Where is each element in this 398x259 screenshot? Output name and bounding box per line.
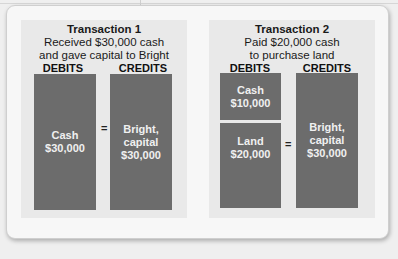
account-amount: $30,000 (45, 142, 85, 155)
description-line-2: to purchase land (209, 49, 375, 62)
credit-box-capital: Bright, capital $30,000 (110, 74, 172, 210)
transaction-2-title: Transaction 2 (209, 23, 375, 35)
account-amount: $30,000 (307, 147, 347, 160)
description-line-2: and gave capital to Bright (21, 49, 187, 62)
debit-box-cash: Cash $10,000 (220, 73, 281, 120)
account-name-line-2: capital (310, 134, 345, 147)
debit-box-cash: Cash $30,000 (34, 74, 96, 210)
account-amount: $20,000 (231, 148, 271, 161)
account-name-line-1: Bright, (309, 121, 344, 134)
account-amount: $30,000 (121, 149, 161, 162)
transactions-card: Transaction 1 Received $30,000 cash and … (6, 5, 389, 239)
account-name: Land (237, 135, 263, 148)
account-name: Cash (237, 84, 264, 97)
credit-box-capital: Bright, capital $30,000 (296, 73, 358, 208)
equals-sign: = (101, 122, 107, 134)
account-name: Cash (52, 129, 79, 142)
account-amount: $10,000 (231, 97, 271, 110)
description-line-1: Paid $20,000 cash (209, 36, 375, 49)
description-line-1: Received $30,000 cash (21, 36, 187, 49)
top-divider-line (0, 3, 398, 4)
debits-header: DEBITS (31, 62, 95, 74)
transaction-1-description: Received $30,000 cash and gave capital t… (21, 36, 187, 62)
transaction-1-panel: Transaction 1 Received $30,000 cash and … (21, 20, 187, 218)
transaction-2-panel: Transaction 2 Paid $20,000 cash to purch… (209, 20, 375, 218)
account-name-line-1: Bright, (123, 123, 158, 136)
credits-header: CREDITS (111, 62, 175, 74)
debit-box-land: Land $20,000 (220, 123, 281, 208)
account-name-line-2: capital (124, 136, 159, 149)
equals-sign: = (285, 138, 291, 150)
transaction-2-description: Paid $20,000 cash to purchase land (209, 36, 375, 62)
transaction-1-title: Transaction 1 (21, 23, 187, 35)
